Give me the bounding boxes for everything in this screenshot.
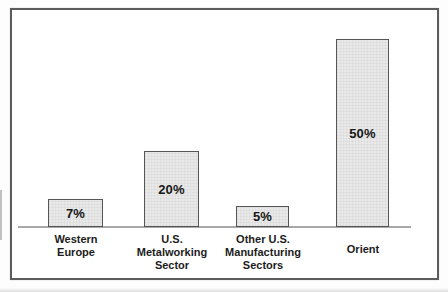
bar-value-label: 7% — [66, 206, 85, 221]
bar-value-label: 20% — [158, 182, 185, 197]
bar: 20% — [144, 151, 199, 227]
scan-artifact — [0, 288, 448, 292]
bar: 50% — [336, 39, 389, 227]
bar: 7% — [48, 199, 103, 227]
bar-value-label: 5% — [253, 209, 272, 224]
scanned-bar-chart: 7%WesternEurope20%U.S.MetalworkingSector… — [0, 0, 448, 292]
bar-value-label: 50% — [349, 126, 376, 141]
category-label: Orient — [303, 243, 423, 256]
category-label-line: Sectors — [203, 259, 323, 272]
scan-artifact — [0, 190, 2, 240]
category-label-line: Orient — [303, 243, 423, 256]
bar: 5% — [236, 206, 289, 227]
